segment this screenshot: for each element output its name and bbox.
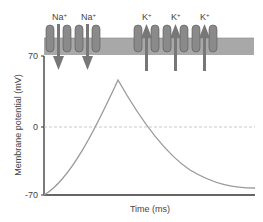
na-label-2: Na+: [81, 12, 97, 22]
k-channel-1: K+: [134, 12, 159, 71]
action-potential-curve: [44, 80, 255, 195]
k-label-2: K+: [171, 12, 181, 22]
k-channel-2: K+: [163, 12, 188, 71]
action-potential-diagram: Na+ Na+ K+ K+: [0, 0, 263, 222]
k-channel-3: K+: [192, 12, 217, 71]
y-tick-70: 70: [28, 51, 38, 61]
na-channel-1: Na+: [46, 12, 71, 70]
y-axis-label: Membrane potential (mV): [13, 74, 23, 176]
x-axis-label: Time (ms): [130, 204, 170, 214]
k-label-1: K+: [142, 12, 152, 22]
y-tick-0: 0: [33, 122, 38, 132]
na-channel-2: Na+: [75, 12, 100, 70]
k-label-3: K+: [200, 12, 210, 22]
y-tick-neg70: -70: [25, 190, 38, 200]
na-label-1: Na+: [52, 12, 68, 22]
